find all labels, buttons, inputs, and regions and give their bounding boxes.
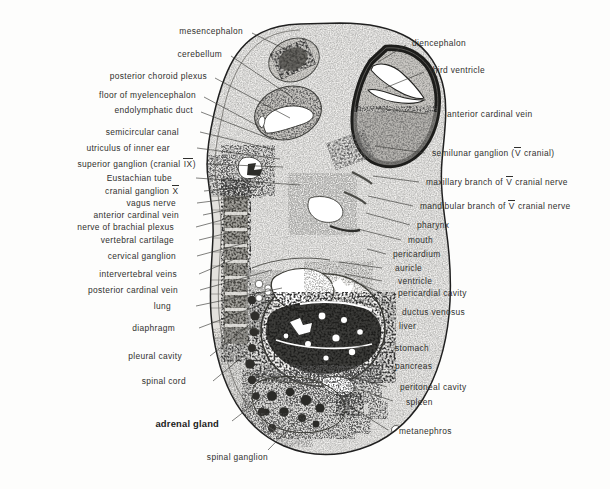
leader-posterior-cardinal-vein bbox=[200, 270, 272, 290]
label-spinal-cord: spinal cord bbox=[142, 376, 186, 386]
leader-spinal-ganglion bbox=[268, 414, 303, 450]
label-floor-of-myelencephalon: floor of myelencephalon bbox=[99, 90, 196, 100]
leader-anterior-cardinal-vein bbox=[203, 208, 236, 215]
leader-metanephros bbox=[340, 400, 388, 430]
roman-numeral: X bbox=[172, 185, 179, 196]
label-pericardial-cavity: pericardial cavity bbox=[398, 288, 467, 298]
roman-numeral: IX bbox=[183, 158, 193, 169]
label-pharynx: pharynx bbox=[417, 220, 449, 230]
label-lung: lung bbox=[154, 301, 171, 311]
label-vagus-nerve: vagus nerve bbox=[127, 198, 176, 208]
leader-mouth bbox=[358, 229, 401, 240]
label-anterior-cardinal-vein: anterior cardinal vein bbox=[94, 210, 179, 220]
leader-mandibular-branch-of-v-cranial-nerve bbox=[368, 196, 413, 206]
label-peritoneal-cavity: peritoneal cavity bbox=[400, 382, 466, 392]
label-pancreas: pancreas bbox=[395, 361, 432, 371]
label-superior-ganglion-cranial-ix: superior ganglion (cranial IX) bbox=[77, 159, 196, 169]
label-diaphragm: diaphragm bbox=[132, 323, 175, 333]
label-intervertebral-veins: intervertebral veins bbox=[99, 269, 177, 279]
leader-semicircular-canal bbox=[200, 132, 275, 150]
label-cranial-ganglion-x: cranial ganglion X bbox=[105, 186, 179, 196]
label-auricle: auricle bbox=[395, 263, 422, 273]
leader-pericardium bbox=[367, 249, 386, 254]
label-utriculus-of-inner-ear: utriculus of inner ear bbox=[86, 143, 170, 153]
leader-intervertebral-veins bbox=[199, 258, 237, 274]
anatomy-plate: mesencephaloncerebellumposterior choroid… bbox=[0, 0, 610, 489]
leader-peritoneal-cavity bbox=[344, 374, 387, 387]
label-semicircular-canal: semicircular canal bbox=[106, 127, 179, 137]
leader-floor-of-myelencephalon bbox=[204, 97, 262, 128]
leader-pericardial-cavity bbox=[352, 281, 382, 293]
label-ductus-venosus: ductus venosus bbox=[402, 307, 465, 317]
leader-pharynx bbox=[366, 213, 410, 225]
label-mesencephalon: mesencephalon bbox=[179, 26, 243, 36]
label-metanephros: metanephros bbox=[399, 426, 452, 436]
label-anterior-cardinal-vein: anterior cardinal vein bbox=[447, 109, 532, 119]
leader-cerebellum bbox=[231, 56, 292, 97]
label-adrenal-gland: adrenal gland bbox=[155, 419, 219, 429]
leader-semilunar-ganglion-v-cranial bbox=[375, 146, 425, 153]
leader-auricle bbox=[339, 262, 382, 268]
leader-third-ventricle bbox=[385, 72, 424, 88]
leader-cranial-ganglion-x bbox=[204, 186, 256, 191]
label-spleen: spleen bbox=[406, 397, 433, 407]
label-mandibular-branch-of-v-cranial-nerve: mandibular branch of V cranial nerve bbox=[420, 201, 570, 211]
label-diencephalon: diencephalon bbox=[412, 38, 466, 48]
leader-lines bbox=[0, 0, 610, 489]
label-nerve-of-brachial-plexus: nerve of brachial plexus bbox=[77, 222, 174, 232]
label-semilunar-ganglion-v-cranial: semilunar ganglion (V cranial) bbox=[432, 148, 554, 158]
leader-lung bbox=[196, 288, 282, 306]
embryo-section-image bbox=[0, 0, 610, 489]
leader-adrenal-gland bbox=[232, 390, 272, 421]
leader-utriculus-of-inner-ear bbox=[197, 148, 280, 159]
label-eustachian-tube: Eustachian tube bbox=[107, 173, 172, 183]
roman-numeral: V bbox=[514, 147, 521, 158]
leader-eustachian-tube bbox=[196, 178, 300, 185]
roman-numeral: V bbox=[506, 176, 513, 187]
leader-nerve-of-brachial-plexus bbox=[196, 219, 226, 227]
leader-stomach bbox=[339, 344, 380, 348]
leader-liver bbox=[349, 320, 383, 326]
label-cervical-ganglion: cervical ganglion bbox=[108, 251, 176, 261]
label-ventricle: ventricle bbox=[398, 276, 432, 286]
label-maxillary-branch-of-v-cranial-nerve: maxillary branch of V cranial nerve bbox=[426, 177, 568, 187]
leader-superior-ganglion-cranial-ix bbox=[206, 164, 283, 167]
leader-ductus-venosus bbox=[355, 300, 388, 311]
label-pleural-cavity: pleural cavity bbox=[128, 351, 182, 361]
leader-endolymphatic-duct bbox=[201, 112, 273, 140]
label-spinal-ganglion: spinal ganglion bbox=[207, 452, 268, 462]
label-pericardium: pericardium bbox=[393, 249, 441, 259]
leader-spleen bbox=[348, 386, 393, 401]
leader-spinal-cord bbox=[213, 352, 248, 381]
leader-ventricle bbox=[345, 274, 382, 281]
leader-vagus-nerve bbox=[197, 196, 252, 203]
leader-pancreas bbox=[329, 362, 380, 366]
label-endolymphatic-duct: endolymphatic duct bbox=[115, 105, 193, 115]
label-vertebral-cartilage: vertebral cartilage bbox=[101, 235, 174, 245]
leader-anterior-cardinal-vein bbox=[376, 108, 428, 114]
label-third-ventricle: third ventricle bbox=[430, 65, 485, 75]
leader-pleural-cavity bbox=[210, 322, 253, 356]
label-cerebellum: cerebellum bbox=[178, 49, 222, 59]
label-mouth: mouth bbox=[408, 235, 433, 245]
leader-mesencephalon bbox=[252, 33, 297, 55]
label-liver: liver bbox=[399, 321, 416, 331]
leader-maxillary-branch-of-v-cranial-nerve bbox=[373, 176, 419, 182]
label-posterior-cardinal-vein: posterior cardinal vein bbox=[88, 285, 178, 295]
leader-vertebral-cartilage bbox=[199, 232, 232, 240]
leader-diaphragm bbox=[199, 300, 273, 328]
leader-cervical-ganglion bbox=[197, 243, 245, 256]
label-stomach: stomach bbox=[395, 343, 429, 353]
leader-posterior-choroid-plexus bbox=[215, 78, 290, 118]
label-posterior-choroid-plexus: posterior choroid plexus bbox=[110, 71, 207, 81]
roman-numeral: V bbox=[508, 200, 515, 211]
leader-diencephalon bbox=[378, 45, 406, 62]
